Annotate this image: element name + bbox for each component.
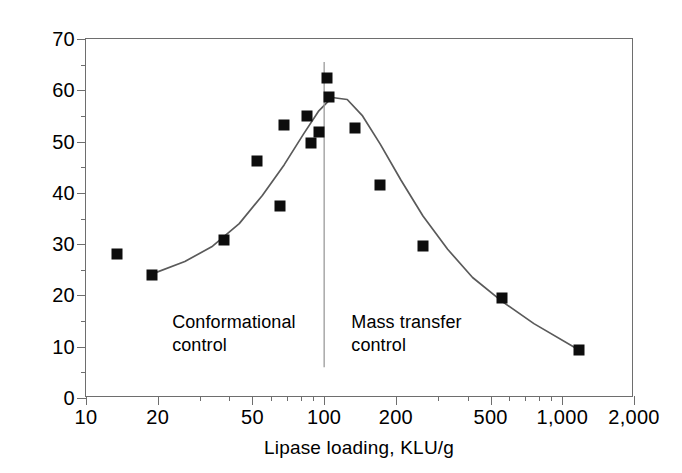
x-minor-tick-mark xyxy=(313,396,314,401)
y-minor-tick-mark xyxy=(81,167,86,168)
x-tick-mark xyxy=(324,396,325,405)
x-tick-mark xyxy=(491,396,492,405)
data-point-marker xyxy=(375,180,386,191)
data-point-marker xyxy=(322,73,333,84)
y-tick-mark xyxy=(77,90,86,91)
data-point-marker xyxy=(147,269,158,280)
x-minor-tick-mark xyxy=(301,396,302,401)
data-point-marker xyxy=(350,123,361,134)
x-minor-tick-mark xyxy=(509,396,510,401)
x-tick-mark xyxy=(158,396,159,405)
x-minor-tick-mark xyxy=(539,396,540,401)
y-minor-tick-mark xyxy=(81,372,86,373)
x-tick-label: 1,000 xyxy=(537,406,589,429)
y-tick-mark xyxy=(77,142,86,143)
x-tick-label: 100 xyxy=(307,406,341,429)
y-minor-tick-mark xyxy=(81,321,86,322)
y-minor-tick-mark xyxy=(81,270,86,271)
x-tick-mark xyxy=(634,396,635,405)
x-tick-mark xyxy=(396,396,397,405)
y-tick-label: 50 xyxy=(52,130,75,153)
y-minor-tick-mark xyxy=(81,65,86,66)
x-tick-label: 10 xyxy=(75,406,98,429)
mass-transfer-control: Mass transfer control xyxy=(351,311,461,357)
y-tick-mark xyxy=(77,193,86,194)
y-tick-mark xyxy=(77,39,86,40)
y-tick-mark xyxy=(77,295,86,296)
x-minor-tick-mark xyxy=(200,396,201,401)
x-tick-label: 20 xyxy=(146,406,169,429)
conformational-control: Conformational control xyxy=(172,311,295,357)
chart-figure: 010203040506070 1020501002005001,0002,00… xyxy=(0,0,682,473)
data-point-marker xyxy=(417,241,428,252)
x-tick-mark xyxy=(252,396,253,405)
data-point-marker xyxy=(274,200,285,211)
data-point-marker xyxy=(279,119,290,130)
y-tick-label: 10 xyxy=(52,335,75,358)
x-tick-mark xyxy=(86,396,87,405)
x-axis-title: Lipase loading, KLU/g xyxy=(85,437,633,459)
data-point-marker xyxy=(219,235,230,246)
y-minor-tick-mark xyxy=(81,116,86,117)
x-minor-tick-mark xyxy=(438,396,439,401)
plot-area: 010203040506070 1020501002005001,0002,00… xyxy=(85,38,633,397)
x-tick-label: 500 xyxy=(473,406,507,429)
data-point-marker xyxy=(305,138,316,149)
data-point-marker xyxy=(313,126,324,137)
x-minor-tick-mark xyxy=(468,396,469,401)
y-tick-label: 60 xyxy=(52,79,75,102)
data-point-marker xyxy=(112,249,123,260)
y-tick-label: 30 xyxy=(52,233,75,256)
y-tick-label: 40 xyxy=(52,181,75,204)
data-point-marker xyxy=(302,110,313,121)
y-tick-mark xyxy=(77,347,86,348)
x-minor-tick-mark xyxy=(271,396,272,401)
x-tick-mark xyxy=(562,396,563,405)
data-point-marker xyxy=(574,345,585,356)
y-minor-tick-mark xyxy=(81,219,86,220)
x-minor-tick-mark xyxy=(229,396,230,401)
data-point-marker xyxy=(497,292,508,303)
x-tick-label: 200 xyxy=(379,406,413,429)
y-tick-label: 0 xyxy=(64,387,75,410)
x-minor-tick-mark xyxy=(525,396,526,401)
x-minor-tick-mark xyxy=(287,396,288,401)
x-tick-label: 50 xyxy=(241,406,264,429)
x-tick-label: 2,000 xyxy=(608,406,660,429)
y-tick-label: 20 xyxy=(52,284,75,307)
y-tick-mark xyxy=(77,244,86,245)
y-tick-mark xyxy=(77,398,86,399)
data-point-marker xyxy=(324,91,335,102)
data-point-marker xyxy=(251,155,262,166)
x-minor-tick-mark xyxy=(551,396,552,401)
y-tick-label: 70 xyxy=(52,28,75,51)
